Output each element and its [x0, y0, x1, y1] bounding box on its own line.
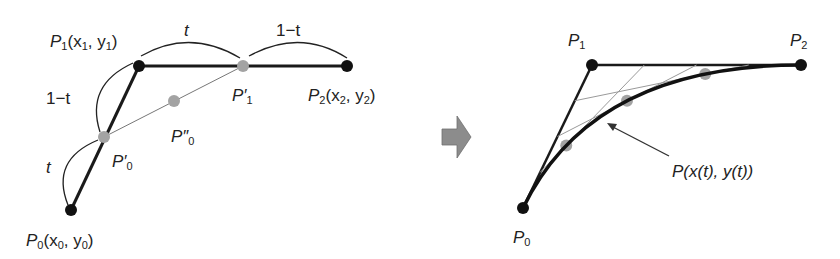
construction-lines	[540, 65, 749, 172]
label-t-top: t	[184, 21, 190, 40]
arc-left-upper	[96, 63, 133, 132]
arc-top-left	[141, 42, 240, 58]
label-1-t-top: 1−t	[276, 21, 300, 40]
curve-pointer-arrowhead	[607, 123, 617, 131]
point-p0	[65, 204, 77, 216]
point-p0prime	[98, 131, 110, 143]
label-p1prime: P′1	[232, 86, 253, 106]
curve-label: P(x(t), y(t))	[672, 162, 753, 181]
label-1-t-left: 1−t	[46, 89, 70, 108]
right-arrow-icon	[442, 116, 471, 158]
right-diagram: P1 P2 P0 P(x(t), y(t))	[513, 31, 807, 248]
label-t-left: t	[46, 158, 52, 177]
label-p1-coords: P1(x1, y1)	[50, 32, 118, 52]
label-r-p1: P1	[568, 31, 585, 51]
label-p0-coords: P0(x0, y0)	[26, 231, 94, 251]
point-r-p2	[795, 59, 807, 71]
label-p0prime: P′0	[112, 152, 133, 172]
left-diagram: t 1−t 1−t t P1(x1, y1) P2(x2, y2) P0(x0,…	[26, 21, 376, 251]
curve-pointer-line	[611, 126, 669, 156]
point-r-p0	[517, 202, 529, 214]
arc-left-lower	[63, 140, 98, 205]
point-p1	[133, 60, 145, 72]
bezier-curve	[523, 65, 801, 208]
diagram-canvas: t 1−t 1−t t P1(x1, y1) P2(x2, y2) P0(x0,…	[0, 0, 840, 259]
point-p0dprime	[168, 95, 180, 107]
point-p2	[341, 60, 353, 72]
point-r-p1	[586, 59, 598, 71]
label-p0dprime: P″0	[171, 127, 194, 147]
arc-top-right	[249, 42, 347, 58]
bezier-diagram: t 1−t 1−t t P1(x1, y1) P2(x2, y2) P0(x0,…	[0, 0, 840, 259]
point-p1prime	[237, 60, 249, 72]
label-r-p2: P2	[790, 31, 807, 51]
label-p2-coords: P2(x2, y2)	[308, 86, 376, 106]
label-r-p0: P0	[513, 228, 530, 248]
